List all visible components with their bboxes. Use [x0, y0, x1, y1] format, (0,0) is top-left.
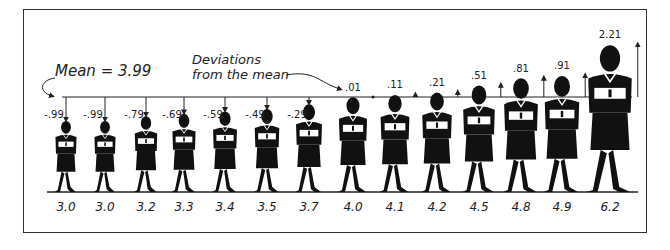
woman-figure-icon: [338, 97, 367, 192]
woman-figure-icon: [503, 78, 538, 192]
value-label: 3.5: [257, 200, 276, 214]
deviation-label: 2.21: [599, 29, 621, 40]
deviation-label: -.99: [83, 109, 103, 120]
woman-figure-icon: [94, 121, 116, 192]
deviation-label-line1: Deviations: [192, 52, 261, 67]
deviation-label: .51: [471, 70, 487, 81]
value-label: 3.3: [174, 200, 193, 214]
woman-figure-icon: [55, 121, 77, 192]
deviation-label: .01: [345, 82, 361, 93]
deviation-label-line2: from the mean: [192, 67, 289, 82]
deviation-label: .21: [429, 77, 445, 88]
deviation-label: -.59: [203, 109, 223, 120]
deviation-annotation: Deviations from the mean: [192, 52, 340, 89]
woman-figure-icon: [587, 45, 632, 192]
mean-annotation: Mean = 3.99: [43, 62, 152, 96]
deviation-arrow-icon: [286, 74, 340, 89]
value-label: 4.5: [469, 200, 488, 214]
woman-figure-icon: [254, 109, 279, 192]
value-label: 6.2: [600, 200, 619, 214]
value-label: 3.2: [136, 200, 155, 214]
woman-figure-icon: [380, 95, 410, 192]
value-label: 4.8: [511, 200, 530, 214]
mean-label: Mean = 3.99: [55, 62, 151, 80]
value-label: 4.0: [343, 200, 362, 214]
value-label: 4.1: [385, 200, 404, 214]
value-label: 3.7: [299, 200, 318, 214]
deviation-label: -.49: [245, 109, 265, 120]
woman-figure-icon: [212, 111, 237, 192]
deviation-label: .81: [513, 63, 529, 74]
woman-figure-icon: [134, 116, 157, 192]
mean-arrow-icon: [43, 78, 55, 96]
value-label: 3.0: [95, 200, 114, 214]
deviation-label: -.69: [162, 109, 182, 120]
value-label: 4.9: [552, 200, 571, 214]
value-label: 3.4: [215, 200, 234, 214]
deviation-label: -.99: [44, 109, 64, 120]
deviation-pictograph: -.99-.99-.79-.69-.59-.49-.29.01.11.21.51…: [0, 0, 670, 250]
deviation-label: -.79: [124, 109, 144, 120]
woman-figure-icon: [544, 76, 580, 192]
deviation-label: .11: [387, 79, 403, 90]
woman-figure-icon: [462, 85, 495, 192]
value-label: 3.0: [56, 200, 75, 214]
woman-figure-icon: [172, 114, 196, 192]
value-labels: 3.03.03.23.33.43.53.74.04.14.24.54.84.96…: [56, 200, 619, 214]
deviation-label: .91: [554, 60, 570, 71]
value-label: 4.2: [427, 200, 446, 214]
deviation-label: -.29: [287, 109, 307, 120]
woman-figure-icon: [421, 93, 452, 192]
